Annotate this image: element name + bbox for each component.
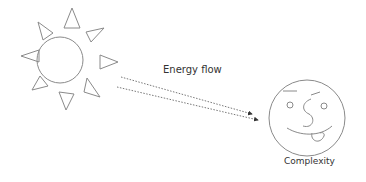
diagram-canvas: Energy flow Complexity	[0, 0, 366, 182]
complexity-label: Complexity	[284, 156, 335, 166]
sun-icon	[21, 8, 118, 110]
energy-flow-arrows	[117, 77, 258, 120]
energy-flow-label: Energy flow	[163, 64, 222, 75]
diagram-graphics	[0, 0, 366, 182]
smiley-face-icon	[269, 80, 345, 156]
